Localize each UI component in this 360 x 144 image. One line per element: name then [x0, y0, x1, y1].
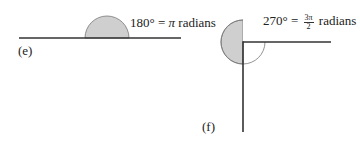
- angle-deg-180: 180° =: [130, 15, 169, 30]
- arc-270: [221, 20, 243, 64]
- label-f: (f): [202, 120, 215, 133]
- semicircle-arc-180: [85, 16, 129, 38]
- angle-unit-270: radians: [316, 13, 357, 28]
- angle-unit-180: radians: [175, 15, 216, 30]
- fraction-3pi-over-2: 3π2: [304, 14, 314, 31]
- angle-text-180: 180° = π radians: [130, 16, 216, 29]
- fraction-denominator: 2: [304, 23, 314, 31]
- angle-text-270: 270° = 3π2 radians: [263, 14, 356, 31]
- angle-deg-270: 270° =: [263, 13, 302, 28]
- arc-270-top: [243, 20, 265, 42]
- label-e: (e): [18, 44, 32, 57]
